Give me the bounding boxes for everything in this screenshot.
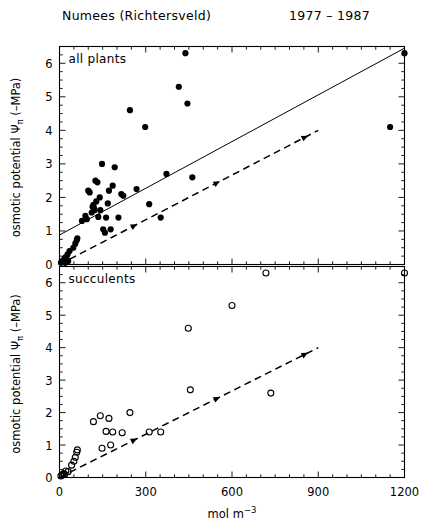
y-tick-label: 2 (45, 191, 52, 205)
data-point-open (158, 429, 164, 435)
y-axis-title-text: osmotic potential Ψπ (–MPa) (9, 294, 25, 454)
data-point-filled (115, 214, 121, 220)
x-tick-label: 0 (56, 485, 63, 499)
y-axis-title: osmotic potential Ψπ (–MPa) (9, 294, 25, 454)
x-tick-label: 900 (307, 485, 329, 499)
y-tick-label: 0 (45, 258, 52, 272)
data-point-filled (110, 183, 116, 189)
data-point-open (263, 270, 269, 276)
data-point-filled (176, 84, 182, 90)
data-point-filled (97, 194, 103, 200)
data-point-filled (112, 164, 118, 170)
data-point-open (127, 410, 133, 416)
data-point-open (268, 390, 274, 396)
figure-title: Numees (Richtersveld)1977 – 1987 (62, 8, 370, 23)
panel-label: succulents (69, 272, 136, 286)
y-tick-label: 4 (45, 341, 52, 355)
data-point-filled (65, 258, 71, 264)
panel-label: all plants (69, 52, 127, 66)
x-axis-title-text: mol m−3 (208, 505, 257, 521)
data-point-filled (182, 50, 188, 56)
trend-arrow-marker (301, 136, 308, 142)
data-point-filled (103, 214, 109, 220)
data-point-filled (102, 230, 108, 236)
y-tick-label: 3 (45, 157, 52, 171)
data-point-filled (84, 216, 90, 222)
panel-upper: all plants0123456osmotic potential Ψπ (–… (9, 47, 408, 273)
data-point-open (106, 415, 112, 421)
data-point-open (110, 429, 116, 435)
data-point-filled (127, 107, 133, 113)
x-tick-label: 600 (221, 485, 243, 499)
data-point-filled (91, 207, 97, 213)
data-point-filled (95, 214, 101, 220)
site-title: Numees (Richtersveld) (62, 8, 211, 23)
trend-line-isotonic-dashed (60, 348, 319, 478)
data-point-open (103, 428, 109, 434)
y-tick-label: 6 (45, 57, 52, 71)
data-point-filled (106, 188, 112, 194)
x-tick-label: 1200 (390, 485, 419, 499)
data-point-open (90, 419, 96, 425)
data-point-open (97, 413, 103, 419)
y-tick-label: 1 (45, 224, 52, 238)
data-point-filled (87, 189, 93, 195)
data-point-open (99, 445, 105, 451)
data-point-filled (120, 193, 126, 199)
data-point-filled (387, 124, 393, 130)
y-tick-label: 1 (45, 439, 52, 453)
y-tick-label: 6 (45, 276, 52, 290)
data-point-filled (189, 174, 195, 180)
figure-container: Numees (Richtersveld)1977 – 1987all plan… (0, 0, 436, 532)
data-point-filled (184, 100, 190, 106)
y-axis-title: osmotic potential Ψπ (–MPa) (9, 78, 25, 238)
y-tick-label: 5 (45, 309, 52, 323)
data-point-filled (158, 214, 164, 220)
data-point-filled (142, 124, 148, 130)
x-axis-title: mol m−3 (208, 505, 257, 521)
data-point-filled (146, 201, 152, 207)
y-tick-labels: 0123456 (45, 276, 52, 485)
axis-ticks (60, 267, 405, 478)
data-points (58, 50, 408, 266)
period-label: 1977 – 1987 (289, 8, 370, 23)
data-point-open (146, 429, 152, 435)
data-point-filled (74, 235, 80, 241)
data-point-open (108, 442, 114, 448)
panel-lower: succulents0123456osmotic potential Ψπ (–… (9, 267, 408, 486)
y-axis-title-text: osmotic potential Ψπ (–MPa) (9, 78, 25, 238)
x-tick-label: 300 (135, 485, 157, 499)
y-tick-labels: 0123456 (45, 57, 52, 272)
y-tick-label: 5 (45, 90, 52, 104)
plot-frame (60, 267, 405, 478)
y-tick-label: 0 (45, 471, 52, 485)
data-point-filled (133, 186, 139, 192)
data-point-filled (94, 179, 100, 185)
data-point-open (229, 302, 235, 308)
trend-arrow-marker (130, 439, 137, 445)
y-tick-label: 2 (45, 406, 52, 420)
data-point-filled (401, 50, 407, 56)
y-tick-label: 3 (45, 374, 52, 388)
data-point-filled (99, 161, 105, 167)
data-point-filled (105, 200, 111, 206)
data-point-open (187, 387, 193, 393)
data-point-filled (108, 226, 114, 232)
data-point-filled (97, 207, 103, 213)
trend-lines (60, 348, 319, 478)
data-point-open (119, 430, 125, 436)
trend-line-regression-solid (60, 48, 405, 235)
scatter-figure: Numees (Richtersveld)1977 – 1987all plan… (0, 0, 436, 532)
data-point-open (185, 325, 191, 331)
data-points (58, 270, 408, 479)
y-tick-label: 4 (45, 124, 52, 138)
x-tick-labels: 03006009001200 (56, 485, 419, 499)
data-point-filled (163, 171, 169, 177)
